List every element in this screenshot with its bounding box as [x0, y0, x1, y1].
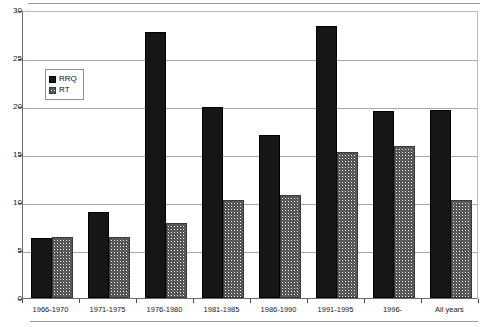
bar-rt-1971-1975	[109, 237, 130, 298]
legend-item-label: RT	[59, 86, 70, 94]
x-axis-tick-mark	[307, 299, 308, 303]
legend-item-rrq: RRQ	[49, 74, 77, 84]
x-axis-tick-label: All years	[421, 305, 478, 314]
solid-black-square-icon	[49, 76, 56, 83]
bar-rrq-1976-1980	[145, 32, 166, 298]
scan-artifact-line-bottom	[30, 321, 478, 322]
legend-item-rt: RT	[49, 85, 77, 95]
x-axis-tick-mark	[421, 299, 422, 303]
x-axis-tick-mark	[478, 299, 479, 303]
bar-rt-All-years	[451, 200, 472, 298]
x-axis-tick-label: 1996-	[364, 305, 421, 314]
bar-rrq-All-years	[430, 110, 451, 298]
bar-rt-1996	[394, 146, 415, 298]
hatched-square-icon	[49, 87, 56, 94]
bar-rt-1981-1985	[223, 200, 244, 298]
x-axis-tick-mark	[364, 299, 365, 303]
bar-rt-1986-1990	[280, 195, 301, 298]
x-axis-tick-label: 1981-1985	[193, 305, 250, 314]
y-axis: 051015202530	[0, 11, 22, 299]
grouped-bar-chart: 051015202530 RRQ RT 1966-19701971-197519…	[0, 0, 488, 327]
x-axis-tick-label: 1986-1990	[250, 305, 307, 314]
legend-item-label: RRQ	[59, 75, 77, 83]
gridline	[23, 108, 477, 109]
x-axis-tick-mark	[79, 299, 80, 303]
gridline	[23, 60, 477, 61]
plot-area	[22, 11, 478, 299]
bar-rt-1966-1970	[52, 237, 73, 298]
x-axis-tick-label: 1991-1995	[307, 305, 364, 314]
x-axis-tick-mark	[22, 299, 23, 303]
x-axis-tick-mark	[250, 299, 251, 303]
bar-rrq-1966-1970	[31, 238, 52, 298]
chart-legend: RRQ RT	[45, 69, 84, 100]
bar-rrq-1991-1995	[316, 26, 337, 298]
bar-rt-1991-1995	[337, 152, 358, 298]
x-axis-tick-mark	[193, 299, 194, 303]
x-axis-tick-label: 1971-1975	[79, 305, 136, 314]
x-axis-tick-mark	[136, 299, 137, 303]
x-axis-tick-label: 1976-1980	[136, 305, 193, 314]
bar-rrq-1986-1990	[259, 135, 280, 298]
bar-rrq-1996	[373, 111, 394, 298]
bar-rrq-1971-1975	[88, 212, 109, 298]
x-axis-tick-label: 1966-1970	[22, 305, 79, 314]
bar-rt-1976-1980	[166, 223, 187, 298]
bar-rrq-1981-1985	[202, 107, 223, 298]
